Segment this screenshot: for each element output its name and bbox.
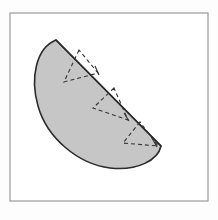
figure-container: Shaded circular segment with inscribed d… (0, 0, 218, 220)
geometry-diagram (0, 0, 218, 220)
